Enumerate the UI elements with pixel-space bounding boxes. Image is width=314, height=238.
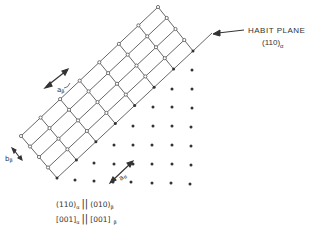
beta-lattice-nodes (19, 5, 185, 169)
relation-direction: [001]α||[001]β (56, 213, 117, 226)
habit-plane-arrow (213, 30, 244, 36)
crystal-lattice-diagram: aβ bβ aα HABIT PLANE (110)α (110)α||(010… (0, 0, 314, 238)
a-beta-leader (64, 83, 70, 88)
beta-lattice-grid (21, 7, 212, 178)
a-alpha-label: aα (117, 171, 128, 182)
habit-plane-title: HABIT PLANE (248, 26, 305, 35)
b-beta-arrow (12, 148, 22, 160)
habit-plane-index: (110)α (262, 38, 284, 49)
relation-plane: (110)α||(010)β (56, 198, 114, 211)
a-beta-label: aβ (57, 86, 65, 95)
b-beta-label: bβ (5, 155, 13, 164)
habit-plane-line (193, 33, 212, 51)
orientation-relations: (110)α||(010)β [001]α||[001]β (56, 198, 117, 226)
